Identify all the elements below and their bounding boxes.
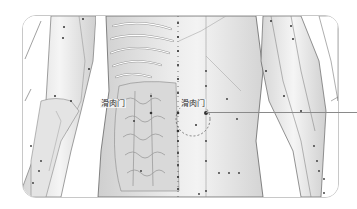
point-label-right: 滑肉门 — [180, 99, 206, 108]
point-label-left: 滑肉门 — [100, 99, 126, 108]
leader-line — [206, 112, 357, 113]
